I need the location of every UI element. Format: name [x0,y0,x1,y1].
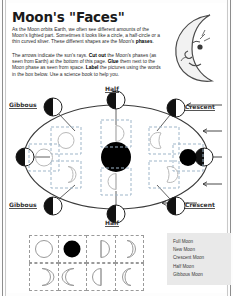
page-title: Moon's "Faces" [12,9,124,25]
diagram-label-crescent-top: Crescent [185,103,215,111]
cutout-cell-new-solid[interactable] [58,235,88,263]
intro-paragraph: As the Moon orbits Earth, we often see d… [12,27,164,46]
word-bank-item-crescent-moon: Crescent Moon [173,254,231,262]
cutout-cell-gibbous-right[interactable] [115,235,145,263]
cutout-cell-full-outline[interactable] [29,235,59,263]
cutout-row-2 [29,263,147,291]
word-bank-item-half-moon: Half Moon [173,263,231,271]
cutout-cell-half-right[interactable] [86,235,116,263]
diagram-label-gibbous-bottom: Gibbous [9,201,37,209]
word-bank-item-gibbous-moon: Gibbous Moon [173,271,231,279]
cutout-cell-crescent-right[interactable] [29,263,59,291]
word-bank-item-new-moon: New Moon [173,246,231,254]
page-edge-left [2,0,3,296]
cutout-cell-half-left[interactable] [86,263,116,291]
cutout-grid [29,235,147,291]
crescent-moon-with-face-icon [162,13,224,85]
page-inner-rule-left [5,0,6,296]
diagram-label-crescent-bottom: Crescent [185,201,215,209]
cutout-cell-gibbous-left[interactable] [115,263,145,291]
word-bank-item-full-moon: Full Moon [173,238,231,246]
worksheet-page: Moon's "Faces" As the Moon orbits Earth,… [0,0,233,296]
cutout-cell-crescent-left[interactable] [58,263,88,291]
diagram-label-half-top: Half [105,85,119,93]
word-bank-box: Full Moon New Moon Crescent Moon Half Mo… [167,233,231,285]
moon-phases-orbit-diagram: Half Gibbous Crescent Gibbous Crescent H… [7,87,226,227]
diagram-label-gibbous-top: Gibbous [9,101,37,109]
cutout-row-1 [29,235,147,263]
diagram-label-half-bottom: Half [105,219,119,227]
instructions-paragraph: The arrows indicate the sun's rays. Cut … [12,53,164,78]
worksheet-sheet: Moon's "Faces" As the Moon orbits Earth,… [7,3,226,293]
